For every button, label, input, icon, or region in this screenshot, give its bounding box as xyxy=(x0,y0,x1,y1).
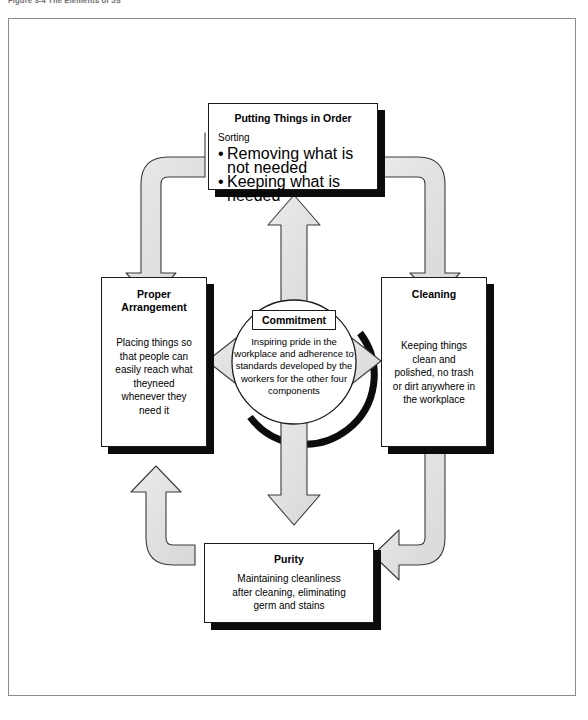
commitment-description: Inspiring pride in the workplace and adh… xyxy=(234,336,354,397)
node-title-line2: Arrangement xyxy=(111,301,197,314)
node-body: Placing things so that people can easily… xyxy=(111,336,197,417)
node-box: Proper Arrangement Placing things so tha… xyxy=(101,277,207,447)
node-body: Keeping things clean and polished, no tr… xyxy=(391,339,477,407)
flow-arrow-cleaning-to-purity xyxy=(373,450,445,580)
node-title: Cleaning xyxy=(391,288,477,301)
node-box: Cleaning Keeping things clean and polish… xyxy=(381,277,487,447)
node-purity[interactable]: Purity Maintaining cleanliness after cle… xyxy=(204,543,374,623)
diagram-stage: Commitment Inspiring pride in the workpl… xyxy=(0,0,588,720)
node-intro: Sorting xyxy=(218,131,368,145)
node-bullet: Removing what is not needed xyxy=(218,147,368,175)
node-title: Putting Things in Order xyxy=(218,112,368,125)
node-title: Purity xyxy=(214,553,364,566)
node-body: Maintaining cleanliness after cleaning, … xyxy=(214,572,364,613)
flow-arrow-order-to-cleaning xyxy=(381,133,460,299)
node-box: Purity Maintaining cleanliness after cle… xyxy=(204,543,374,623)
node-box: Putting Things in Order Sorting Removing… xyxy=(208,103,378,190)
node-cleaning[interactable]: Cleaning Keeping things clean and polish… xyxy=(381,277,487,447)
node-title-line1: Proper xyxy=(111,288,197,301)
commitment-badge: Commitment xyxy=(252,310,336,330)
center-node: Commitment Inspiring pride in the workpl… xyxy=(234,310,354,397)
node-bullet: Keeping what is needed xyxy=(218,175,368,203)
flow-arrow-arrangement-to-order xyxy=(126,133,207,299)
node-putting-things-in-order[interactable]: Putting Things in Order Sorting Removing… xyxy=(208,103,378,190)
node-proper-arrangement[interactable]: Proper Arrangement Placing things so tha… xyxy=(101,277,207,447)
flow-arrow-purity-to-arrangement xyxy=(131,466,195,565)
node-bullet-list: Removing what is not needed Keeping what… xyxy=(218,147,368,203)
